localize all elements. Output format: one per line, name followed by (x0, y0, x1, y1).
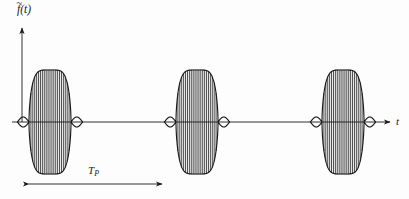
tilde-accent-icon: ~ (17, 0, 22, 8)
y-axis-label-symbol: ~f (17, 4, 20, 16)
period-label-subscript: P (94, 169, 99, 178)
period-label: TP (88, 165, 99, 178)
x-axis-label: t (396, 116, 399, 127)
y-axis-label: ~f(t) (17, 4, 31, 16)
waveform-canvas (0, 0, 409, 199)
waveform-figure: ~f(t) t TP (0, 0, 409, 199)
